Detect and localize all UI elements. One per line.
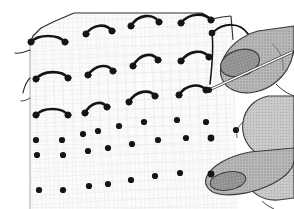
knuckle-line bbox=[276, 84, 294, 96]
illustration-canvas: Hand stitching curved stitches on dotted… bbox=[0, 0, 294, 209]
hand-bottom-edge bbox=[262, 201, 274, 209]
loose-thread-1 bbox=[15, 50, 30, 53]
embroidery-illustration-svg bbox=[0, 0, 294, 209]
loose-thread-3 bbox=[21, 98, 30, 101]
needle-tip bbox=[206, 87, 212, 93]
finger-side-edge bbox=[237, 122, 243, 138]
loose-thread-2 bbox=[23, 78, 30, 93]
thumb-pressed-dot bbox=[208, 171, 215, 178]
